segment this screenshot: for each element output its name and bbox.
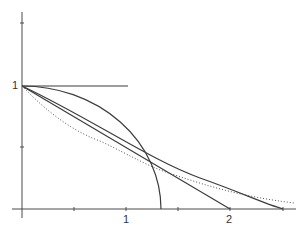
- elliptic-arc: [22, 86, 161, 209]
- concave-curve: [22, 86, 283, 209]
- x-tick-label-2: 2: [226, 214, 232, 225]
- x-tick-label-1: 1: [123, 214, 129, 225]
- straight-line: [22, 86, 230, 209]
- diagram-canvas: [0, 0, 304, 235]
- y-tick-label-1: 1: [12, 80, 18, 91]
